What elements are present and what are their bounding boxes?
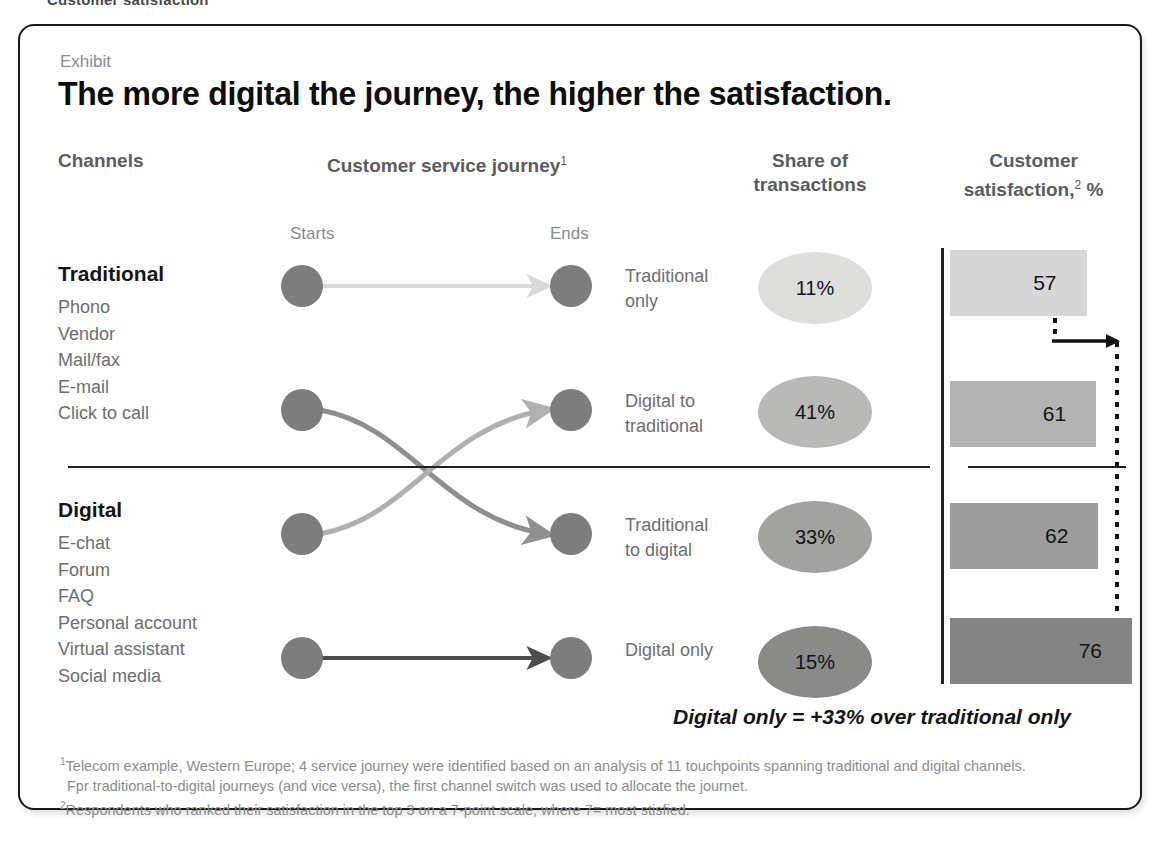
exhibit-card: Exhibit The more digital the journey, th… — [18, 24, 1142, 810]
footnote-2-text: Respondents who ranked their satisfactio… — [66, 802, 690, 818]
footnotes: 1Telecom example, Western Europe; 4 serv… — [60, 752, 1110, 820]
footnote-1-cont: Fpr traditional-to-digital journeys (and… — [60, 776, 1110, 796]
delta-annotation — [20, 26, 1144, 812]
footnote-2: 2Respondents who ranked their satisfacti… — [60, 796, 1110, 820]
footnote-1-text: Telecom example, Western Europe; 4 servi… — [66, 758, 1026, 774]
delta-caption: Digital only = +33% over traditional onl… — [673, 705, 1071, 729]
footnote-1: 1Telecom example, Western Europe; 4 serv… — [60, 752, 1110, 776]
page-crumb: Customer satisfaction — [47, 0, 209, 8]
